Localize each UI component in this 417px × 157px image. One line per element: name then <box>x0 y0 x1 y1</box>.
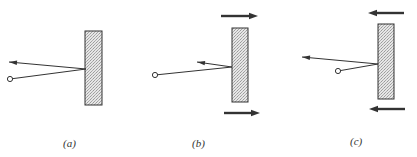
reflected-arrowhead-icon <box>9 61 17 65</box>
reflected-ray <box>302 57 378 64</box>
panel-a <box>7 31 102 105</box>
particle-source-icon <box>7 76 12 81</box>
incident-ray <box>155 67 232 75</box>
incident-ray <box>338 64 378 71</box>
panel-label-c: (c) <box>350 135 362 147</box>
reflected-ray <box>9 62 86 69</box>
reflected-arrowhead-icon <box>302 56 310 60</box>
panel-label-b: (b) <box>192 137 205 149</box>
wall <box>378 24 394 99</box>
panel-b <box>152 13 260 116</box>
wall <box>232 28 248 102</box>
panel-label-a: (a) <box>63 137 76 149</box>
particle-source-icon <box>335 68 340 73</box>
motion-arrowhead-icon <box>251 110 260 116</box>
incident-ray <box>10 69 86 79</box>
motion-arrowhead-icon <box>249 13 258 19</box>
particle-source-icon <box>152 72 157 77</box>
motion-arrowhead-icon <box>369 106 378 112</box>
panel-c <box>302 10 405 112</box>
motion-arrowhead-icon <box>368 10 377 16</box>
reflected-arrowhead-icon <box>197 61 205 65</box>
reflection-diagram <box>0 0 417 157</box>
wall <box>85 31 102 105</box>
